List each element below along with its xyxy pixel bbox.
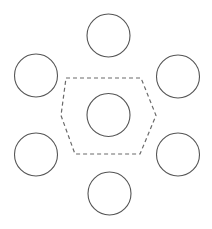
circle-upper-left bbox=[15, 54, 58, 97]
unit-cell-hexagon bbox=[61, 78, 156, 154]
circle-top bbox=[87, 14, 130, 57]
hexagonal-packing-diagram bbox=[0, 0, 212, 229]
circle-lower-left bbox=[15, 133, 58, 176]
packing-canvas bbox=[0, 0, 212, 229]
circle-lower-right bbox=[157, 133, 200, 176]
circle-bottom bbox=[88, 172, 131, 215]
circle-center bbox=[87, 94, 130, 137]
circle-upper-right bbox=[157, 55, 200, 98]
